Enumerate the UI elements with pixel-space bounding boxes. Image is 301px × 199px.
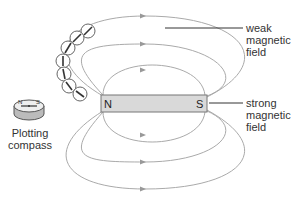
chain-compass-icon <box>56 54 70 68</box>
field-lines-lower <box>66 110 245 189</box>
plotting-compass-icon: N S <box>14 99 44 120</box>
weak-field-label: weak magnetic field <box>246 22 291 58</box>
strong-field-label: strong magnetic field <box>246 97 291 133</box>
north-pole-label: N <box>104 98 112 110</box>
south-pole-label: S <box>196 98 203 110</box>
compass-s-label: S <box>36 99 40 105</box>
chain-compass-icon <box>61 41 75 55</box>
chain-compass-icon <box>73 87 87 101</box>
plotting-compass-caption: Plotting compass <box>0 127 60 151</box>
compass-n-label: N <box>18 99 22 105</box>
bar-magnet: N S <box>101 95 207 112</box>
compass-chain <box>56 24 95 101</box>
